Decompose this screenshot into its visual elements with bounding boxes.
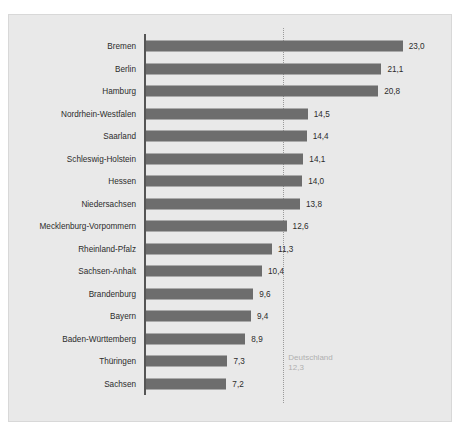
bar-value-label: 11,3 bbox=[278, 244, 293, 253]
category-label: Sachsen bbox=[104, 379, 136, 388]
bar bbox=[146, 131, 307, 142]
bar-and-value: 21,1 bbox=[146, 63, 403, 74]
bar-and-value: 14,5 bbox=[146, 108, 330, 119]
category-label: Sachsen-Anhalt bbox=[78, 267, 136, 276]
category-label: Niedersachsen bbox=[81, 199, 136, 208]
category-label: Berlin bbox=[115, 64, 136, 73]
bar-and-value: 12,6 bbox=[146, 221, 309, 232]
bar-row: Hamburg20,8 bbox=[9, 80, 451, 103]
bar bbox=[146, 198, 300, 209]
category-label: Schleswig-Holstein bbox=[67, 154, 136, 163]
bar-and-value: 9,4 bbox=[146, 311, 268, 322]
page-top-margin bbox=[0, 0, 467, 13]
bar-and-value: 23,0 bbox=[146, 41, 425, 52]
bar bbox=[146, 288, 253, 299]
category-label: Bayern bbox=[110, 312, 136, 321]
bar-chart-panel: Deutschland 12,3 Bremen23,0Berlin21,1Ham… bbox=[8, 14, 452, 422]
bar bbox=[146, 86, 378, 97]
bar-value-label: 14,5 bbox=[314, 109, 330, 118]
bar bbox=[146, 266, 262, 277]
bar bbox=[146, 333, 245, 344]
bar-value-label: 14,0 bbox=[308, 177, 324, 186]
bar-row: Berlin21,1 bbox=[9, 58, 451, 81]
bar-and-value: 14,4 bbox=[146, 131, 329, 142]
bar-and-value: 8,9 bbox=[146, 333, 263, 344]
bar-and-value: 13,8 bbox=[146, 198, 322, 209]
bar-and-value: 7,2 bbox=[146, 378, 244, 389]
bar-value-label: 9,4 bbox=[257, 312, 268, 321]
category-label: Thüringen bbox=[99, 357, 136, 366]
bar-row: Nordrhein-Westfalen14,5 bbox=[9, 103, 451, 126]
bar-value-label: 7,2 bbox=[232, 379, 243, 388]
bar bbox=[146, 378, 226, 389]
bar-row: Sachsen7,2 bbox=[9, 373, 451, 396]
bar-and-value: 20,8 bbox=[146, 86, 400, 97]
bar-value-label: 14,1 bbox=[309, 154, 325, 163]
bar-row: Thüringen7,3 bbox=[9, 350, 451, 373]
category-label: Nordrhein-Westfalen bbox=[61, 109, 136, 118]
category-label: Hamburg bbox=[102, 87, 136, 96]
category-label: Saarland bbox=[103, 132, 136, 141]
category-label: Baden-Württemberg bbox=[62, 334, 136, 343]
bar-value-label: 7,3 bbox=[233, 357, 244, 366]
bar-value-label: 8,9 bbox=[251, 334, 262, 343]
bar bbox=[146, 153, 303, 164]
bar-and-value: 14,1 bbox=[146, 153, 325, 164]
bar-and-value: 7,3 bbox=[146, 356, 245, 367]
category-label: Hessen bbox=[108, 177, 136, 186]
bar bbox=[146, 243, 272, 254]
bar-value-label: 12,6 bbox=[293, 222, 309, 231]
bar-row: Bremen23,0 bbox=[9, 35, 451, 58]
bar bbox=[146, 311, 251, 322]
bar-row: Sachsen-Anhalt10,4 bbox=[9, 260, 451, 283]
bar-value-label: 20,8 bbox=[384, 87, 400, 96]
bar-row: Mecklenburg-Vorpommern12,6 bbox=[9, 215, 451, 238]
bar-row: Schleswig-Holstein14,1 bbox=[9, 148, 451, 171]
category-label: Brandenburg bbox=[89, 289, 136, 298]
bar-value-label: 13,8 bbox=[306, 199, 322, 208]
bar-row: Saarland14,4 bbox=[9, 125, 451, 148]
category-label: Rheinland-Pfalz bbox=[78, 244, 136, 253]
bar-and-value: 11,3 bbox=[146, 243, 293, 254]
bar bbox=[146, 108, 308, 119]
category-label: Mecklenburg-Vorpommern bbox=[40, 222, 136, 231]
category-label: Bremen bbox=[107, 42, 136, 51]
bar-row: Rheinland-Pfalz11,3 bbox=[9, 238, 451, 261]
bar-row: Bayern9,4 bbox=[9, 305, 451, 328]
bar-value-label: 21,1 bbox=[387, 64, 403, 73]
bar bbox=[146, 221, 287, 232]
bar-value-label: 10,4 bbox=[268, 267, 284, 276]
bar-and-value: 14,0 bbox=[146, 176, 324, 187]
bar bbox=[146, 63, 381, 74]
bar-and-value: 10,4 bbox=[146, 266, 284, 277]
bar-and-value: 9,6 bbox=[146, 288, 271, 299]
bar bbox=[146, 356, 227, 367]
bar bbox=[146, 41, 403, 52]
bar-row: Hessen14,0 bbox=[9, 170, 451, 193]
plot-area: Deutschland 12,3 Bremen23,0Berlin21,1Ham… bbox=[9, 15, 451, 421]
bar bbox=[146, 176, 302, 187]
bar-value-label: 14,4 bbox=[313, 132, 329, 141]
bar-value-label: 23,0 bbox=[409, 42, 425, 51]
bar-row: Brandenburg9,6 bbox=[9, 283, 451, 306]
bar-value-label: 9,6 bbox=[259, 289, 270, 298]
bar-row: Baden-Württemberg8,9 bbox=[9, 328, 451, 351]
bar-row: Niedersachsen13,8 bbox=[9, 193, 451, 216]
